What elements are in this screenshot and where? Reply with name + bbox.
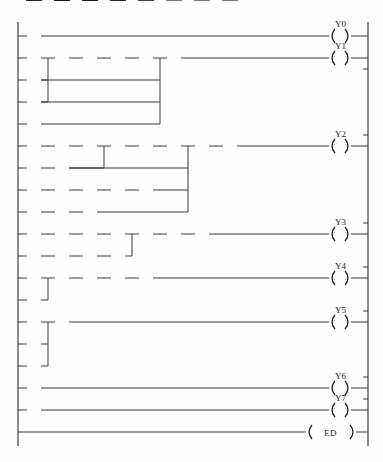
contact-y3: Y3 bbox=[222, 0, 238, 2]
coil-arc-right bbox=[345, 315, 348, 329]
rung-9: ED bbox=[18, 425, 368, 439]
coil-y7: Y7 bbox=[332, 393, 348, 417]
coil-arc-right bbox=[345, 227, 348, 241]
coil-y5: Y5 bbox=[332, 305, 348, 329]
rung-8: Y4Y7 bbox=[18, 0, 368, 417]
coil-arc-left bbox=[332, 51, 335, 65]
contact-label: Y1 bbox=[166, 0, 177, 2]
coil-arc-left bbox=[332, 227, 335, 241]
coil-y3: Y3 bbox=[332, 217, 348, 241]
contact-label: Y3 bbox=[222, 0, 233, 2]
ladder-logic-svg: X0Y0X3X1X2X7XEXDX4Y1Y7Y1XBXCX10X8X9XAY1Y… bbox=[0, 0, 383, 462]
coil-y0: Y0 bbox=[332, 19, 348, 43]
contact-label: Y4 bbox=[26, 0, 37, 2]
coil-y6: Y6 bbox=[332, 371, 348, 395]
coil-y2: Y2 bbox=[332, 129, 348, 153]
contact-label: X2 bbox=[82, 0, 93, 2]
coil-ed: ED bbox=[309, 425, 353, 439]
coil-y1: Y1 bbox=[332, 41, 348, 65]
coil-label: Y3 bbox=[335, 217, 346, 227]
coil-label: Y4 bbox=[335, 261, 346, 271]
coil-arc-left bbox=[332, 139, 335, 153]
coil-label: Y5 bbox=[335, 305, 346, 315]
coil-label: Y7 bbox=[335, 393, 346, 403]
coil-y4: Y4 bbox=[332, 261, 348, 285]
coil-arc-left bbox=[309, 425, 312, 439]
contact-label: Y2 bbox=[194, 0, 205, 2]
coil-label: Y0 bbox=[335, 19, 346, 29]
ladder-diagram-canvas: X0Y0X3X1X2X7XEXDX4Y1Y7Y1XBXCX10X8X9XAY1Y… bbox=[0, 0, 383, 462]
coil-arc-right bbox=[345, 403, 348, 417]
rungs-layer: X0Y0X3X1X2X7XEXDX4Y1Y7Y1XBXCX10X8X9XAY1Y… bbox=[18, 0, 368, 439]
coil-arc-right bbox=[345, 139, 348, 153]
coil-arc-left bbox=[332, 403, 335, 417]
coil-arc-left bbox=[332, 315, 335, 329]
rung-5: X5X1X2X7XDX6Y4 bbox=[18, 0, 368, 300]
coil-label: Y6 bbox=[335, 371, 346, 381]
rung-6: X1Y1X2XEY5 bbox=[18, 0, 368, 366]
coil-label: Y1 bbox=[335, 41, 346, 51]
coil-label: Y2 bbox=[335, 129, 346, 139]
rung-4: X8X9XAXBXFY1Y2X9XBXCX11Y3 bbox=[18, 0, 368, 256]
contact-xd: XD bbox=[138, 0, 153, 2]
contact-label: X7 bbox=[110, 0, 121, 2]
rung-1: X0Y0 bbox=[18, 0, 368, 43]
coil-arc-right bbox=[345, 271, 348, 285]
rung-7: Y4Y6 bbox=[18, 0, 368, 395]
coil-label: ED bbox=[324, 428, 337, 438]
contact-y2: Y2 bbox=[194, 0, 210, 2]
contact-y1: Y1 bbox=[54, 0, 70, 2]
coil-arc-right bbox=[345, 51, 348, 65]
contact-label: XD bbox=[138, 0, 151, 2]
coil-arc-left bbox=[332, 271, 335, 285]
contact-y4: Y4 bbox=[26, 0, 42, 2]
contact-label: Y1 bbox=[54, 0, 65, 2]
rung-2: X3X1X2X7XEXDX4Y1Y7Y1 bbox=[18, 0, 368, 124]
rung-3: XBXCX10X8X9XAY1Y3XFXCXAXBXCXFX11X8XFX11Y… bbox=[18, 0, 368, 212]
coil-arc-right bbox=[350, 425, 353, 439]
